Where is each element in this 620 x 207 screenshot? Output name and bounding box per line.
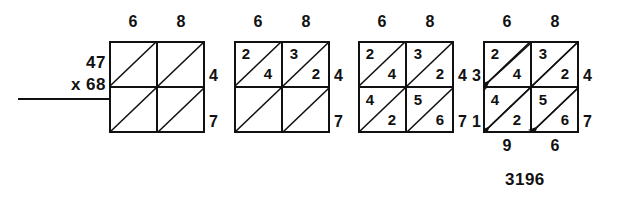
top-label-col-0: 6 (483, 13, 531, 31)
right-label-row-1: 7 (209, 113, 225, 131)
step-3-all-cells-filled: 684724324256 (358, 41, 454, 133)
lattice-frame (109, 41, 205, 133)
cell-0-0-tens-digit: 2 (487, 46, 503, 62)
cell-1-1-ones-digit: 6 (432, 112, 448, 128)
cell-0-0-ones-digit: 4 (260, 66, 276, 82)
cell-1-0-tens-digit: 4 (362, 92, 378, 108)
cell-0-0-tens-digit: 2 (238, 46, 254, 62)
multiplicand: 47 (18, 52, 110, 74)
right-label-row-1: 7 (583, 113, 599, 131)
cell-1-1-tens-digit: 5 (535, 92, 551, 108)
multiplier: x 68 (18, 74, 110, 100)
step-1-empty-lattice: 6847 (109, 41, 205, 133)
top-label-col-0: 6 (109, 13, 157, 31)
left-sum-row-1: 1 (465, 113, 481, 131)
cell-0-1-tens-digit: 3 (410, 46, 426, 62)
step-4-diagonals-summed: 6847319624324256 (483, 41, 579, 133)
right-label-row-0: 4 (209, 67, 225, 85)
top-label-col-1: 8 (157, 13, 205, 31)
cell-0-0-ones-digit: 4 (509, 66, 525, 82)
cell-0-1-ones-digit: 2 (308, 66, 324, 82)
cell-0-0-tens-digit: 2 (362, 46, 378, 62)
cell-1-1-tens-digit: 5 (410, 92, 426, 108)
final-answer: 3196 (505, 170, 545, 190)
cell-1-1-ones-digit: 6 (557, 112, 573, 128)
multiplication-problem: 47 x 68 (18, 52, 110, 100)
right-label-row-0: 4 (334, 67, 350, 85)
top-label-col-1: 8 (531, 13, 579, 31)
cell-0-1-tens-digit: 3 (286, 46, 302, 62)
cell-1-0-ones-digit: 2 (384, 112, 400, 128)
cell-0-1-ones-digit: 2 (432, 66, 448, 82)
cell-1-0-tens-digit: 4 (487, 92, 503, 108)
top-label-col-1: 8 (406, 13, 454, 31)
right-label-row-1: 7 (334, 113, 350, 131)
cell-0-1-tens-digit: 3 (535, 46, 551, 62)
top-label-col-0: 6 (234, 13, 282, 31)
left-sum-row-0: 3 (465, 67, 481, 85)
bottom-sum-col-1: 6 (531, 137, 579, 155)
right-label-row-0: 4 (583, 67, 599, 85)
cell-0-1-ones-digit: 2 (557, 66, 573, 82)
bottom-sum-col-0: 9 (483, 137, 531, 155)
step-2-top-row-filled: 68472432 (234, 41, 330, 133)
cell-1-0-ones-digit: 2 (509, 112, 525, 128)
cell-0-0-ones-digit: 4 (384, 66, 400, 82)
lattice-multiplication-figure: 47 x 68 68476847243268472432425668473196… (0, 0, 620, 207)
top-label-col-0: 6 (358, 13, 406, 31)
top-label-col-1: 8 (282, 13, 330, 31)
